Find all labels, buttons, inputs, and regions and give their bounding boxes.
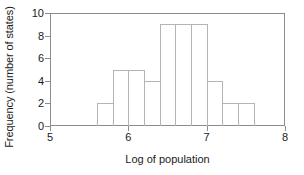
histogram-bar	[160, 24, 177, 126]
histogram-bar	[238, 103, 255, 126]
y-tick-label: 4	[24, 76, 44, 87]
x-tick-label: 7	[197, 132, 217, 143]
histogram-bar	[175, 24, 192, 126]
y-tick-mark	[45, 13, 50, 14]
y-tick-mark	[45, 103, 50, 104]
histogram-bar	[207, 81, 224, 126]
y-tick-label: 0	[24, 121, 44, 132]
histogram-bar	[128, 70, 145, 127]
x-tick-label: 5	[40, 132, 60, 143]
x-tick-label: 6	[118, 132, 138, 143]
histogram-bar	[113, 70, 130, 127]
y-tick-label: 6	[24, 53, 44, 64]
y-tick-label: 8	[24, 31, 44, 42]
x-axis-title: Log of population	[50, 153, 285, 166]
histogram-bar	[191, 24, 208, 126]
y-axis-title: Frequency (number of states)	[1, 5, 17, 150]
x-tick-label: 8	[275, 132, 295, 143]
histogram-figure: Frequency (number of states) 0246810 567…	[0, 0, 304, 175]
y-tick-mark	[45, 36, 50, 37]
histogram-bar	[97, 103, 114, 126]
y-tick-mark	[45, 81, 50, 82]
histogram-bar	[144, 81, 161, 126]
y-tick-label: 10	[24, 8, 44, 19]
histogram-bar	[222, 103, 239, 126]
y-tick-mark	[45, 58, 50, 59]
y-tick-label: 2	[24, 98, 44, 109]
